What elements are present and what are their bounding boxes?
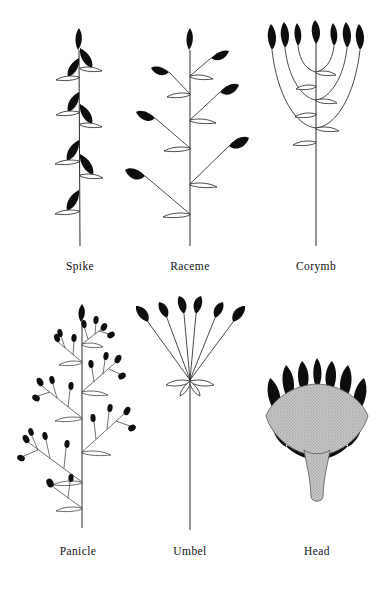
panicle-floret-4c [49,376,56,385]
head-receptacle [266,384,368,456]
umbel-floret-1 [136,306,149,322]
corymb-bract-2 [296,85,316,90]
panicle-floret-6d [16,454,26,463]
panicle-branchlet-6c [24,450,38,456]
panicle-floret-4b [68,382,74,390]
panicle-branchlet-6d [32,436,38,450]
raceme-floret-terminal [186,28,192,50]
umbel-pedicel-6 [190,322,233,380]
panicle-branch-1 [81,316,116,348]
panicle-bract-5 [82,451,111,456]
panicle-branchlet-4c [38,392,50,396]
spike-floret-terminal [75,28,81,50]
umbel-drawing [130,300,250,535]
raceme-bract-2 [167,93,190,98]
panicle-branchlet-1c [99,331,109,334]
corymb-pedicel-left-1 [298,46,316,72]
corymb-floret-2 [281,22,289,48]
panicle-floret-3c [103,352,109,361]
panicle-bract-2 [59,361,82,366]
umbel-pedicel-3 [184,314,190,380]
panicle-floret-5c [107,404,113,413]
panicle-branch-2 [53,329,82,366]
raceme-pedicel-6 [145,176,190,214]
umbel-pedicel-1 [148,322,190,380]
corymb-floret-4-terminal [312,20,320,44]
corymb-pedicel-right-3 [316,50,360,128]
panicle-floret-6b [64,440,70,448]
spike-bract-6 [80,174,103,179]
raceme-bract-6 [163,213,190,218]
panicle-drawing [8,300,148,535]
panicle-branchlet-4b [53,384,57,398]
raceme-pedicel-4 [155,118,190,148]
panicle-branch-5-axis [82,414,124,452]
spike-bract-1 [80,67,102,72]
raceme-floret-6 [125,168,145,179]
panicle-floret-1c [93,316,99,324]
panicle-floret-3d [117,371,127,380]
panicle-branch-4-axis [42,386,82,418]
corymb-floret-1 [268,24,276,50]
panicle-floret-terminal [78,304,84,322]
corymb-bract-6 [293,141,316,146]
diagram-raceme: Raceme [125,18,255,250]
panicle-bract-4 [55,417,82,422]
panicle-branch-2-axis [58,342,82,362]
raceme-pedicel-3 [190,92,220,120]
panicle-branchlet-4a [68,390,70,407]
panicle-branch-3 [82,352,127,396]
panicle-branchlet-5b [107,412,109,429]
raceme-bract-5 [190,183,217,188]
corymb-bract-4 [295,113,316,118]
panicle-bract-7 [56,507,82,512]
panicle-branch-4 [31,376,82,422]
diagram-panicle: Panicle [8,300,148,535]
panicle-branch-3-axis [82,362,116,392]
panicle-floret-6e [27,427,34,436]
raceme-bract-3 [190,119,216,124]
head-drawing [256,300,378,535]
umbel-floret-3 [178,296,187,314]
spike-stem-group [79,50,80,246]
spike-floret-3 [68,92,80,112]
corymb-pedicel-right-1 [316,46,334,72]
panicle-bract-1 [82,343,103,348]
umbel-floret-6 [232,306,245,322]
panicle-floret-6c [42,432,49,441]
panicle-branch-7 [45,474,82,512]
panicle-branchlet-5c [116,421,130,426]
umbel-floret-2 [158,302,168,318]
panicle-branch-7-axis [52,486,82,508]
diagram-umbel: Umbel [130,300,250,535]
raceme-bract-1 [190,75,213,80]
spike-main-stem [79,50,80,246]
panicle-branchlet-2a [73,342,74,355]
raceme-bract-4 [164,147,190,152]
corymb-drawing [255,18,377,250]
raceme-pedicel-5 [190,146,229,184]
spike-bract-3 [56,111,79,116]
corymb-floret-3 [294,23,301,46]
raceme-floret-5 [229,137,249,149]
spike-bract-2 [56,76,79,81]
caption-panicle: Panicle [8,545,148,557]
raceme-floret-1 [211,50,229,60]
umbel-floret-5 [214,302,224,318]
panicle-bract-6 [53,481,82,486]
spike-floret-2 [68,58,80,77]
panicle-branch-6-axis [28,442,82,482]
spike-floret-1 [80,48,93,68]
panicle-branchlet-3c [109,369,120,374]
corymb-bract-5 [316,127,339,132]
panicle-branchlet-5a [94,422,96,439]
spike-bract-7 [55,210,79,215]
spike-floret-5 [67,140,80,161]
panicle-branchlet-3a [92,368,94,382]
umbel-pedicel-4 [190,314,196,380]
raceme-pedicel-2 [169,72,190,94]
raceme-floret-2 [151,67,169,76]
panicle-floret-1a [100,322,109,332]
panicle-branchlet-6a [64,448,66,468]
spike-bract-5 [55,160,79,165]
